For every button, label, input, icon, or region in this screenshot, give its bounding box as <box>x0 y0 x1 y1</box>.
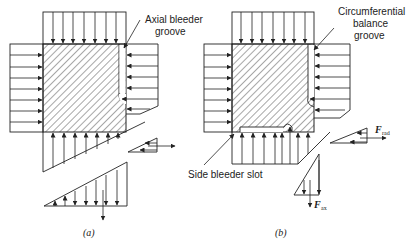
f-ax-symbol: F <box>313 199 321 210</box>
panel-a: Axial bleeder groove (a) <box>10 12 203 239</box>
slot-leader <box>204 134 234 165</box>
axial-resultant-a <box>44 162 127 220</box>
f-ax-subscript: ax <box>321 205 327 211</box>
axial-groove-label-2: groove <box>155 26 186 37</box>
bottom-pressure-b <box>232 127 330 164</box>
seal-body-b <box>232 44 314 132</box>
left-pressure-a <box>10 44 43 132</box>
right-pressure-b <box>310 44 350 118</box>
caption-a: (a) <box>83 227 95 239</box>
f-rad-subscript: rad <box>382 130 390 136</box>
left-pressure-b <box>204 44 232 132</box>
right-pressure-a <box>122 44 158 114</box>
axial-groove-label-1: Axial bleeder <box>145 14 203 25</box>
circumferential-groove-label-3: groove <box>354 30 385 41</box>
seal-body-a <box>43 44 126 132</box>
f-rad-symbol: F <box>374 124 382 135</box>
circumferential-groove-label-1: Circumferential <box>338 6 405 17</box>
radial-resultant-a <box>128 138 175 152</box>
top-pressure-b <box>232 12 314 44</box>
radial-resultant-b: F rad <box>330 124 390 143</box>
top-pressure-a <box>43 12 126 44</box>
bearing-pressure-diagram: Axial bleeder groove (a) <box>0 0 408 247</box>
groove-leader-b <box>314 28 334 50</box>
circumferential-groove-label-2: balance <box>353 18 388 29</box>
panel-b: F rad F ax Circumferential balance groov… <box>188 6 405 239</box>
caption-b: (b) <box>275 227 287 239</box>
side-slot-label: Side bleeder slot <box>188 169 263 180</box>
